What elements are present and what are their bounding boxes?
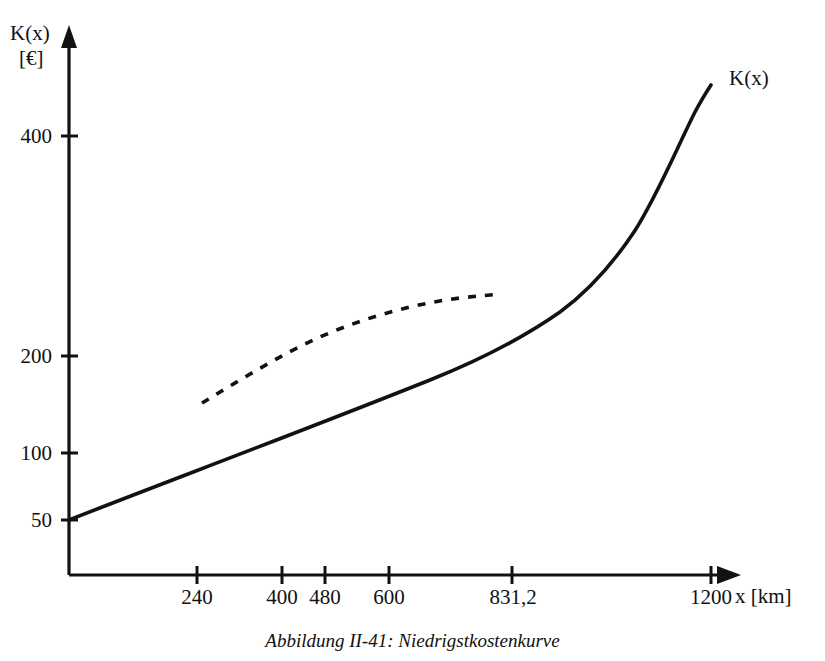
y-axis-arrow-icon (61, 25, 77, 48)
x-axis-arrow-icon (717, 566, 741, 584)
y-tick-label-200: 200 (0, 345, 52, 367)
x-tick-label-240: 240 (167, 586, 227, 608)
curve-annotation-kx: K(x) (729, 67, 769, 89)
x-tick-label-480: 480 (295, 586, 355, 608)
cost-curve-plot (0, 0, 825, 661)
x-axis (69, 566, 741, 584)
y-tick-label-50: 50 (0, 509, 52, 531)
figure-container: K(x) [€] 400 200 100 50 240 400 480 600 … (0, 0, 825, 661)
x-tick-label-8312: 831,2 (476, 586, 550, 608)
y-axis-unit: [€] (19, 47, 44, 69)
y-tick-label-400: 400 (0, 125, 52, 147)
y-tick-label-100: 100 (0, 442, 52, 464)
y-axis-title: K(x) (10, 22, 50, 44)
x-axis-title: x [km] (735, 585, 792, 607)
curve-dashed-segment (202, 294, 500, 403)
curve-kx-solid (69, 85, 711, 520)
x-tick-label-600: 600 (359, 586, 419, 608)
figure-caption: Abbildung II-41: Niedrigstkostenkurve (0, 630, 825, 652)
y-axis (61, 25, 78, 575)
